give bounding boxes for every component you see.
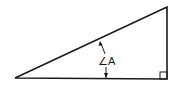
angle-label: ∠A	[98, 55, 116, 67]
right-angle-marker	[160, 72, 167, 79]
arrowhead-bottom-icon	[104, 73, 108, 78]
triangle-outline	[15, 7, 167, 79]
right-triangle-diagram: ∠A	[0, 0, 178, 101]
